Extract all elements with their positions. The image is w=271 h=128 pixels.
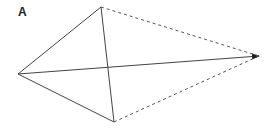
edge-top-bottom <box>101 7 114 122</box>
diagram-edges <box>18 7 259 122</box>
kite-diagram <box>0 0 271 128</box>
edge-bottom-right <box>114 56 259 122</box>
edge-left-right <box>18 56 259 74</box>
edge-left-top <box>18 7 101 74</box>
edge-left-bottom <box>18 74 114 122</box>
edge-top-right <box>101 7 259 56</box>
